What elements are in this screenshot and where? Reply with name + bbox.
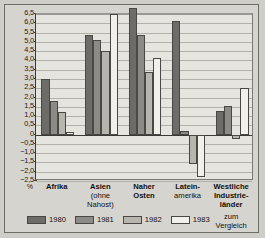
y-axis-tick-label: 1,5 — [6, 102, 34, 110]
category-label-sub2: länder — [203, 200, 259, 209]
bar — [66, 132, 74, 135]
bar-group — [210, 14, 254, 179]
legend-swatch — [123, 216, 142, 224]
legend-label: 1980 — [49, 215, 66, 224]
bar — [153, 58, 161, 135]
bar — [232, 135, 240, 140]
bar — [240, 88, 248, 134]
bar-group — [167, 14, 211, 179]
bar — [189, 135, 197, 165]
y-axis-tick-label: 1,0 — [6, 111, 34, 119]
legend-label: 1981 — [97, 215, 114, 224]
y-axis-tick-label: 0 — [6, 130, 34, 138]
y-axis-tick-label: 3,5 — [6, 65, 34, 73]
category-axis: AfrikaAsien(ohneNahost)NaherOstenLatein-… — [35, 182, 253, 234]
chart-frame: 6,56,05,55,04,54,03,53,02,52,01,51,00,50… — [4, 4, 259, 233]
y-axis-tick-label: 5,5 — [6, 28, 34, 36]
bar — [50, 101, 58, 134]
y-axis-tick-label: −0,5 — [6, 139, 34, 147]
y-axis-tick-label: 6,5 — [6, 9, 34, 17]
y-axis-tick-label: 6,0 — [6, 18, 34, 26]
bar — [101, 51, 109, 135]
y-axis: 6,56,05,55,04,54,03,53,02,52,01,51,00,50… — [5, 13, 34, 180]
legend-label: 1982 — [145, 215, 162, 224]
y-axis-tick-label: 2,0 — [6, 93, 34, 101]
bar — [224, 106, 232, 135]
bar — [93, 40, 101, 135]
bar — [180, 131, 188, 135]
bar — [58, 112, 66, 134]
bar-group — [80, 14, 124, 179]
bar — [172, 21, 180, 134]
bar — [129, 8, 137, 134]
bar-group — [36, 14, 80, 179]
bar — [216, 111, 224, 134]
y-axis-tick-label: −1,0 — [6, 148, 34, 156]
legend-item[interactable]: 1980 — [27, 215, 66, 224]
bar — [85, 35, 93, 134]
plot-area — [35, 13, 253, 180]
chart-legend: 1980198119821983 — [27, 215, 219, 224]
y-axis-tick-label: 5,0 — [6, 37, 34, 45]
category-label-main: Westliche — [203, 182, 259, 191]
legend-swatch — [27, 216, 46, 224]
legend-label: 1983 — [193, 215, 210, 224]
y-axis-tick-label: 2,5 — [6, 83, 34, 91]
legend-swatch — [171, 216, 190, 224]
bar — [145, 72, 153, 135]
legend-item[interactable]: 1981 — [75, 215, 114, 224]
category-label-sub2: Nahost) — [73, 200, 129, 209]
legend-swatch — [75, 216, 94, 224]
bar — [110, 14, 118, 135]
y-axis-tick-label: −2,0 — [6, 167, 34, 175]
legend-item[interactable]: 1983 — [171, 215, 210, 224]
bar — [137, 35, 145, 134]
bar — [41, 79, 49, 135]
y-axis-tick-label: −1,5 — [6, 157, 34, 165]
bar — [197, 135, 205, 178]
y-axis-tick-label: 3,0 — [6, 74, 34, 82]
y-axis-tick-label: 4,5 — [6, 46, 34, 54]
y-axis-tick-label: 0,5 — [6, 120, 34, 128]
y-axis-tick-label: 4,0 — [6, 55, 34, 63]
legend-item[interactable]: 1982 — [123, 215, 162, 224]
category-label-sub: Industrie- — [203, 191, 259, 200]
bar-group — [123, 14, 167, 179]
